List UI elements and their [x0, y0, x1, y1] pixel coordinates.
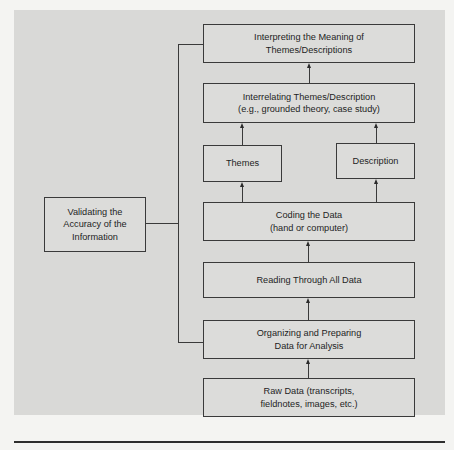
- node-reading: Reading Through All Data: [203, 262, 415, 298]
- node-organizing: Organizing and Preparing Data for Analys…: [203, 320, 415, 359]
- arrowhead-icon: [240, 182, 244, 187]
- figure: Interpreting the Meaning of Themes/Descr…: [0, 0, 454, 450]
- edge-coding-to-description: [376, 184, 377, 202]
- bracket-vertical: [178, 44, 179, 343]
- edge-reading-to-coding: [308, 246, 309, 262]
- arrowhead-icon: [306, 359, 310, 364]
- bottom-rule: [14, 441, 445, 443]
- edge-organizing-to-reading: [308, 303, 309, 320]
- arrowhead-icon: [374, 123, 378, 128]
- arrowhead-icon: [306, 298, 310, 303]
- node-coding: Coding the Data (hand or computer): [203, 202, 415, 241]
- arrowhead-icon: [374, 179, 378, 184]
- edge-themes-to-interrelating: [242, 128, 243, 145]
- edge-coding-to-themes: [242, 187, 243, 202]
- bracket-validating-arm: [146, 223, 178, 224]
- arrowhead-icon: [307, 63, 311, 68]
- node-interpreting: Interpreting the Meaning of Themes/Descr…: [203, 24, 415, 63]
- node-raw-data: Raw Data (transcripts, fieldnotes, image…: [203, 378, 415, 417]
- bracket-bottom-arm: [178, 342, 203, 343]
- node-themes: Themes: [203, 145, 282, 182]
- arrowhead-icon: [306, 241, 310, 246]
- edge-description-to-interrelating: [376, 128, 377, 143]
- edge-interrelating-to-interpreting: [309, 68, 310, 83]
- bracket-top-arm: [178, 44, 203, 45]
- edge-raw-to-organizing: [308, 364, 309, 378]
- node-validating: Validating the Accuracy of the Informati…: [44, 197, 146, 252]
- arrowhead-icon: [240, 123, 244, 128]
- node-interrelating: Interrelating Themes/Description (e.g., …: [203, 83, 415, 123]
- node-description: Description: [336, 143, 415, 179]
